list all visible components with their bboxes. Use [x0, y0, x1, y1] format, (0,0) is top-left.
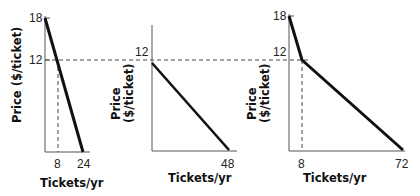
- x-axis-label: Tickets/yr: [40, 176, 104, 190]
- demand-curve: [152, 63, 229, 150]
- y-axis-label: Price ($/ticket): [10, 27, 24, 123]
- y-tick-label-18: 18: [29, 11, 43, 25]
- x-axis-label: Tickets/yr: [303, 171, 367, 185]
- x-tick-label-8: 8: [54, 157, 61, 171]
- market-demand-curve: [289, 16, 403, 150]
- y-axis-label-line1: Price: [245, 87, 259, 120]
- y-axis-label-line2: ($/ticket): [258, 63, 272, 123]
- x-tick-label-72: 72: [395, 157, 409, 171]
- x-tick-label-48: 48: [221, 157, 235, 171]
- x-axis-label: Tickets/yr: [168, 171, 232, 185]
- x-tick-label-8: 8: [298, 157, 305, 171]
- y-axis-label-line1: Price: [109, 87, 123, 120]
- demand-curve: [45, 18, 83, 152]
- x-tick-label-24: 24: [77, 157, 91, 171]
- demand-charts: 18 12 8 24 Tickets/yr Price ($/ticket) 1…: [0, 0, 420, 196]
- y-tick-label-12: 12: [29, 53, 43, 67]
- panel-3: 18 12 8 72 Tickets/yr Price ($/ticket): [245, 9, 409, 185]
- panel-2: 12 48 Tickets/yr Price ($/ticket): [109, 25, 237, 185]
- y-axis-label-line2: ($/ticket): [122, 63, 136, 123]
- y-tick-label-12: 12: [135, 45, 149, 59]
- y-tick-label-12: 12: [273, 45, 287, 59]
- panel-1: 18 12 8 24 Tickets/yr Price ($/ticket): [10, 11, 104, 190]
- y-tick-label-18: 18: [273, 9, 287, 23]
